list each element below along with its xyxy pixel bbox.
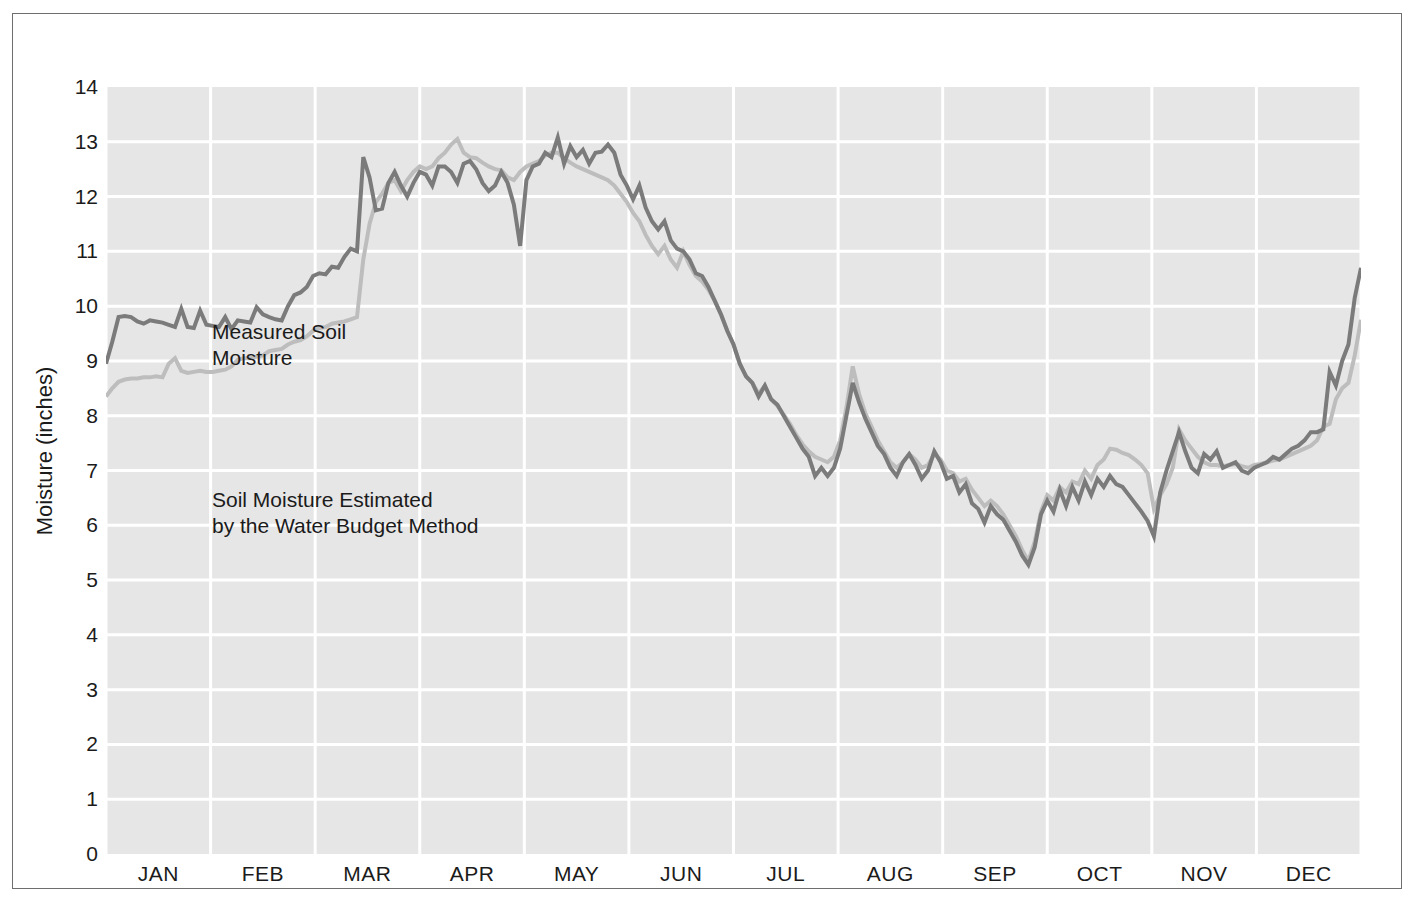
- x-axis-tick-label-nov: NOV: [1152, 863, 1257, 884]
- x-axis-tick-label-oct: OCT: [1047, 863, 1152, 884]
- y-axis-tick-label: 7: [64, 460, 98, 481]
- y-axis-tick-label: 1: [64, 788, 98, 809]
- x-axis-tick-label-jun: JUN: [629, 863, 734, 884]
- annotation-measured-soil-moisture: Measured Soil Moisture: [212, 319, 346, 370]
- y-axis-tick-label: 0: [64, 843, 98, 864]
- plot-svg: [106, 87, 1361, 854]
- x-axis-tick-label-jan: JAN: [106, 863, 211, 884]
- x-axis-tick-label-dec: DEC: [1256, 863, 1361, 884]
- figure-root: Moisture (inches) 14131211109876543210 M…: [0, 0, 1414, 917]
- x-axis-tick-label-apr: APR: [420, 863, 525, 884]
- y-axis-tick-label: 6: [64, 514, 98, 535]
- y-axis-tick-label: 11: [64, 240, 98, 261]
- y-axis-tick-label: 4: [64, 624, 98, 645]
- y-axis-tick-label: 9: [64, 350, 98, 371]
- x-axis-tick-label-feb: FEB: [211, 863, 316, 884]
- y-axis-tick-labels: 14131211109876543210: [53, 14, 98, 917]
- y-axis-tick-label: 10: [64, 295, 98, 316]
- y-axis-tick-label: 2: [64, 733, 98, 754]
- x-axis-tick-labels: JANFEBMARAPRMAYJUNJULAUGSEPOCTNOVDEC: [106, 863, 1361, 895]
- y-axis-tick-label: 3: [64, 679, 98, 700]
- chart-frame-border: Moisture (inches) 14131211109876543210 M…: [12, 13, 1402, 889]
- y-axis-tick-label: 14: [64, 76, 98, 97]
- y-axis-tick-label: 8: [64, 405, 98, 426]
- plot-area: Measured Soil Moisture Soil Moisture Est…: [106, 87, 1361, 854]
- x-axis-tick-label-may: MAY: [524, 863, 629, 884]
- x-axis-tick-label-mar: MAR: [315, 863, 420, 884]
- y-axis-tick-label: 5: [64, 569, 98, 590]
- x-axis-tick-label-sep: SEP: [943, 863, 1048, 884]
- annotation-estimated-soil-moisture: Soil Moisture Estimated by the Water Bud…: [212, 487, 479, 538]
- y-axis-tick-label: 12: [64, 186, 98, 207]
- x-axis-tick-label-aug: AUG: [838, 863, 943, 884]
- x-axis-tick-label-jul: JUL: [734, 863, 839, 884]
- y-axis-tick-label: 13: [64, 131, 98, 152]
